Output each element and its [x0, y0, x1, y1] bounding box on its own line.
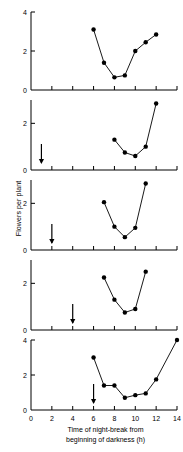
data-point	[91, 27, 95, 31]
panel-5: 24681012140024	[0, 336, 183, 428]
data-line	[94, 340, 177, 398]
data-point	[102, 383, 106, 387]
data-point	[112, 224, 116, 228]
x-tick-label-0: 0	[29, 415, 33, 422]
plot-area-panel-5: 24681012140024	[0, 336, 183, 428]
y-tick-label-2: 2	[23, 280, 27, 287]
data-point	[154, 32, 158, 36]
data-point	[144, 269, 148, 273]
data-point	[123, 150, 127, 154]
panel-2: 02	[0, 96, 183, 176]
x-tick-label-6: 6	[92, 415, 96, 422]
y-tick-label-2: 2	[23, 120, 27, 127]
plot-area-panel-2: 02	[0, 96, 183, 176]
y-tick-label-4: 4	[23, 337, 27, 344]
plot-area-panel-4: 02	[0, 256, 183, 336]
x-axis-title-line1: Time of night-break from	[28, 425, 183, 435]
y-tick-label-2: 2	[23, 200, 27, 207]
y-tick-label-0: 0	[23, 327, 27, 334]
x-tick-label-14: 14	[173, 415, 181, 422]
x-axis-title-line2: beginning of darkness (h)	[28, 435, 183, 445]
data-point	[133, 49, 137, 53]
data-point	[144, 40, 148, 44]
data-point	[123, 310, 127, 314]
data-line	[114, 104, 156, 157]
x-axis-title: Time of night-break from beginning of da…	[28, 425, 183, 444]
data-point	[144, 181, 148, 185]
figure-root: Flowers per plant 024 02 02 02 246810121…	[0, 0, 183, 452]
data-point	[91, 355, 95, 359]
data-point	[123, 396, 127, 400]
data-point	[133, 307, 137, 311]
data-point	[144, 391, 148, 395]
data-point	[123, 73, 127, 77]
y-tick-label-0: 0	[23, 407, 27, 414]
y-tick-label-4: 4	[23, 9, 27, 16]
x-tick-label-4: 4	[71, 415, 75, 422]
data-point	[144, 144, 148, 148]
data-point	[112, 383, 116, 387]
y-tick-label-0: 0	[23, 167, 27, 174]
data-point	[133, 154, 137, 158]
x-tick-label-12: 12	[152, 415, 160, 422]
data-point	[133, 393, 137, 397]
plot-area-panel-3: 02	[0, 176, 183, 256]
data-line	[104, 184, 146, 238]
data-line	[94, 30, 157, 78]
x-tick-label-8: 8	[112, 415, 116, 422]
panel-4: 02	[0, 256, 183, 336]
data-point	[102, 61, 106, 65]
arrow-marker	[49, 224, 54, 244]
panel-3: 02	[0, 176, 183, 256]
x-tick-label-10: 10	[131, 415, 139, 422]
data-point	[112, 297, 116, 301]
arrow-marker	[91, 384, 96, 404]
y-tick-label-2: 2	[23, 48, 27, 55]
data-point	[102, 275, 106, 279]
data-point	[102, 200, 106, 204]
data-point	[112, 75, 116, 79]
data-point	[154, 377, 158, 381]
y-tick-label-0: 0	[23, 87, 27, 94]
x-tick-label-2: 2	[50, 415, 54, 422]
data-point	[123, 235, 127, 239]
arrow-marker	[39, 144, 44, 164]
data-point	[133, 226, 137, 230]
panel-1: 024	[0, 8, 183, 96]
data-line	[104, 272, 146, 313]
data-point	[112, 137, 116, 141]
data-point	[154, 101, 158, 105]
arrow-marker	[70, 304, 75, 324]
y-tick-label-2: 2	[23, 372, 27, 379]
data-point	[175, 338, 179, 342]
plot-area-panel-1: 024	[0, 8, 183, 96]
y-tick-label-0: 0	[23, 247, 27, 254]
